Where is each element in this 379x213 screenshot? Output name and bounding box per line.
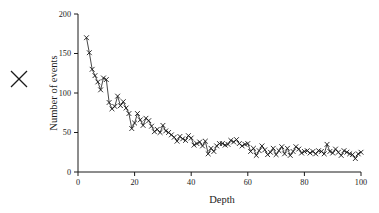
data-point-marker xyxy=(135,111,140,116)
data-point-marker xyxy=(141,123,146,128)
x-tick-label: 80 xyxy=(300,178,308,187)
data-point-marker xyxy=(282,151,287,156)
data-point-marker xyxy=(285,146,290,151)
x-axis-ticks: 020406080100 xyxy=(76,172,367,187)
y-tick-label: 50 xyxy=(63,128,71,137)
data-point-marker xyxy=(274,152,279,157)
data-point-marker xyxy=(124,106,129,111)
data-point-marker xyxy=(260,144,265,149)
x-tick-label: 100 xyxy=(355,178,367,187)
chart-figure: 050100150200 020406080100 Depth Number o… xyxy=(0,0,379,213)
data-point-marker xyxy=(268,150,273,155)
data-point-marker xyxy=(279,144,284,149)
data-point-marker xyxy=(93,73,98,78)
data-point-marker xyxy=(262,147,267,152)
x-tick-label: 20 xyxy=(131,178,139,187)
data-point-marker xyxy=(211,149,216,154)
y-tick-label: 100 xyxy=(59,89,71,98)
x-tick-label: 40 xyxy=(187,178,195,187)
data-point-marker xyxy=(158,130,163,135)
data-point-marker xyxy=(132,121,137,126)
data-point-marker xyxy=(234,137,239,142)
x-tick-label: 60 xyxy=(244,178,252,187)
data-point-marker xyxy=(257,148,262,153)
data-series-events xyxy=(84,35,363,161)
data-point-marker xyxy=(322,151,327,156)
x-axis-title: Depth xyxy=(209,194,235,205)
data-point-marker xyxy=(277,148,282,153)
y-axis-title: Number of events xyxy=(48,55,59,130)
data-point-marker xyxy=(121,99,126,104)
data-point-marker xyxy=(115,94,120,99)
data-point-marker xyxy=(138,117,143,122)
data-point-marker xyxy=(288,153,293,158)
data-point-marker xyxy=(172,135,177,140)
data-point-marker xyxy=(175,139,180,144)
data-point-marker xyxy=(271,146,276,151)
data-point-marker xyxy=(146,118,151,123)
axes xyxy=(78,14,361,172)
data-point-marker xyxy=(353,156,358,161)
data-point-marker xyxy=(325,142,330,147)
data-point-marker xyxy=(296,147,301,152)
data-point-marker xyxy=(291,149,296,154)
series-line xyxy=(86,38,361,159)
series-markers xyxy=(84,35,363,161)
y-tick-label: 200 xyxy=(59,10,71,19)
data-point-marker xyxy=(118,103,123,108)
x-tick-label: 0 xyxy=(76,178,80,187)
data-point-marker xyxy=(200,144,205,149)
data-point-marker xyxy=(251,146,256,151)
data-point-marker xyxy=(339,153,344,158)
data-point-marker xyxy=(254,153,259,158)
y-tick-label: 150 xyxy=(59,49,71,58)
data-point-marker xyxy=(149,124,154,129)
data-point-marker xyxy=(161,123,166,128)
data-point-marker xyxy=(189,136,194,141)
line-chart: 050100150200 020406080100 Depth Number o… xyxy=(0,0,379,213)
data-point-marker xyxy=(112,104,117,109)
y-tick-label: 0 xyxy=(67,168,71,177)
y-axis-ticks: 050100150200 xyxy=(59,10,78,177)
data-point-marker xyxy=(95,80,100,85)
